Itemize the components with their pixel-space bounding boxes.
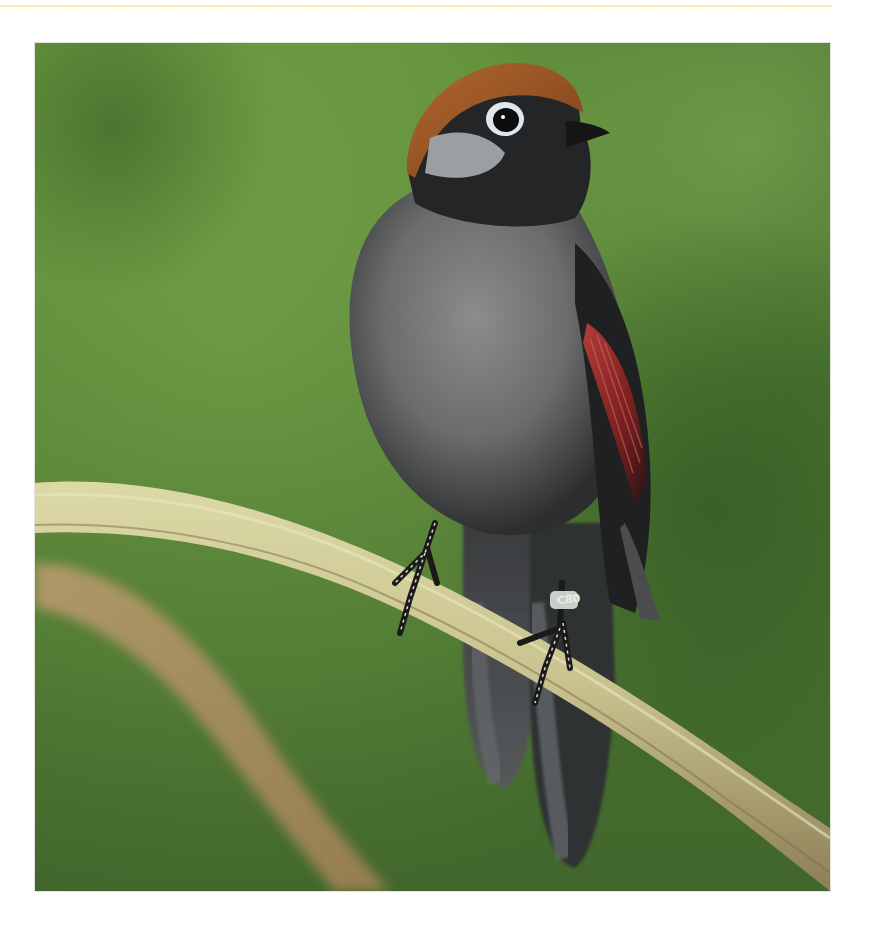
- bird-photo-illustration: [35, 43, 830, 891]
- bird-photo: [35, 43, 830, 891]
- top-decorative-rule: [0, 5, 832, 7]
